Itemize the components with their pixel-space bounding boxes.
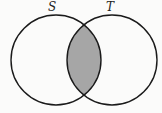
set-s-label: S [48,0,56,14]
set-t-label: T [106,0,114,14]
venn-diagram [0,0,162,113]
